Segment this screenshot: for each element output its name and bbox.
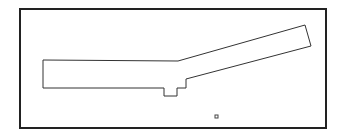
diagram-canvas	[0, 0, 342, 137]
floorplan-outline	[43, 25, 311, 96]
diagram-frame	[20, 9, 326, 128]
point-marker	[215, 115, 218, 118]
diagram-svg	[0, 0, 342, 137]
